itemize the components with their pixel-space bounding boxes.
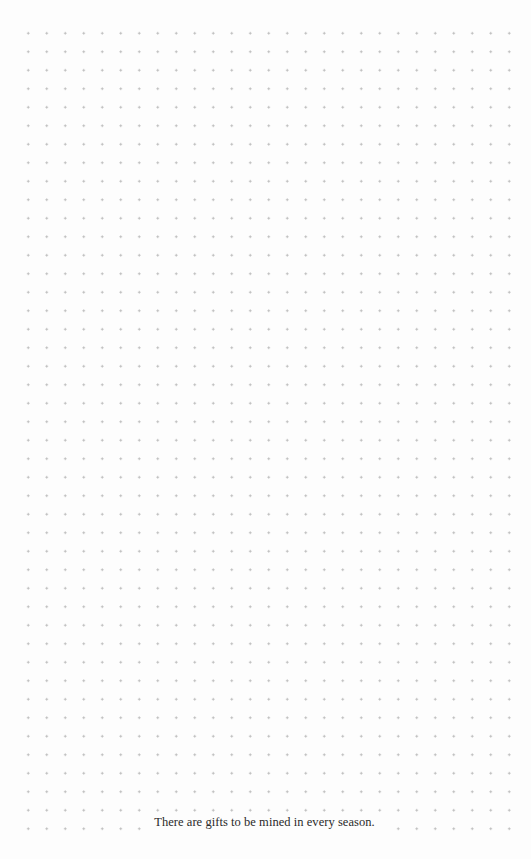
dot-grid xyxy=(19,24,519,839)
footer-quote-row: There are gifts to be mined in every sea… xyxy=(0,812,531,832)
footer-quote: There are gifts to be mined in every sea… xyxy=(146,812,383,832)
notebook-page: There are gifts to be mined in every sea… xyxy=(0,0,531,859)
